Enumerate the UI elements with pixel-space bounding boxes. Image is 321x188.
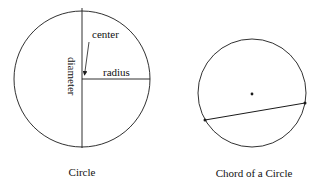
radius-label: radius xyxy=(103,66,130,78)
circle-figure: center radius diameter Circle xyxy=(14,8,150,178)
chord-endpoint-left xyxy=(204,119,207,122)
circle-caption: Circle xyxy=(69,166,96,178)
center-arrow xyxy=(85,42,90,75)
center-label: center xyxy=(92,28,119,40)
chord-caption: Chord of a Circle xyxy=(216,167,293,179)
chord-endpoint-right xyxy=(304,102,307,105)
chord-figure: Chord of a Circle xyxy=(198,39,307,179)
center-dot xyxy=(251,93,254,96)
chord-line xyxy=(205,103,305,120)
diameter-label: diameter xyxy=(66,57,78,96)
circle-diagrams: center radius diameter Circle Chord of a… xyxy=(0,0,321,188)
